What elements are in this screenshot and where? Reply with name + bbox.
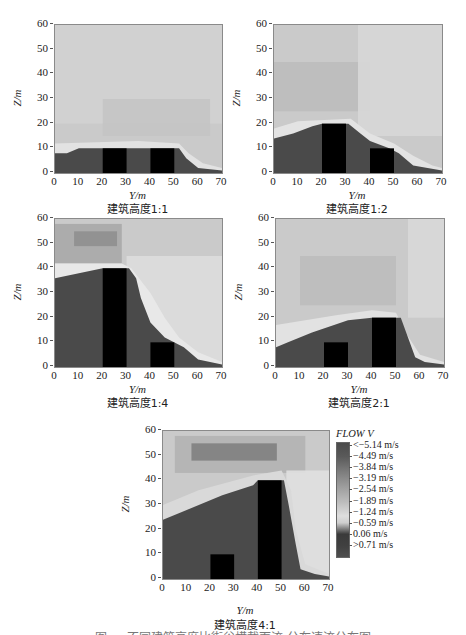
y-tick-label: 40 bbox=[138, 473, 156, 484]
building-block bbox=[150, 148, 174, 173]
y-tick-label: 40 bbox=[251, 261, 269, 272]
x-tick-label: 0 bbox=[265, 369, 285, 381]
x-tick-label: 0 bbox=[152, 581, 172, 593]
y-tick-label: 60 bbox=[251, 212, 269, 223]
x-tick-label: 10 bbox=[287, 175, 307, 187]
y-tick-label: 20 bbox=[30, 117, 48, 128]
plot-area bbox=[275, 218, 445, 368]
x-tick-label: 50 bbox=[383, 175, 403, 187]
x-tick-label: 10 bbox=[68, 175, 88, 187]
y-tick-label: 30 bbox=[138, 498, 156, 509]
panel-caption: 建筑高度1:2 bbox=[307, 200, 407, 216]
x-tick-label: 50 bbox=[163, 369, 183, 381]
x-tick-label: 20 bbox=[311, 175, 331, 187]
legend-tick-label: >0.71 m/s bbox=[353, 540, 393, 550]
building-block bbox=[324, 342, 348, 367]
y-tick-label: 20 bbox=[138, 523, 156, 534]
x-tick-label: 20 bbox=[313, 369, 333, 381]
y-tick-label: 50 bbox=[138, 449, 156, 460]
building-block bbox=[210, 554, 234, 579]
x-tick-label: 20 bbox=[92, 175, 112, 187]
colorbar bbox=[336, 442, 350, 558]
building-block bbox=[103, 268, 127, 367]
building-block bbox=[258, 480, 282, 579]
y-tick-label: 30 bbox=[30, 286, 48, 297]
building-block bbox=[370, 148, 394, 173]
legend-tick-label: 0.06 m/s bbox=[353, 529, 387, 539]
y-tick-label: 40 bbox=[30, 67, 48, 78]
y-tick-label: 50 bbox=[30, 43, 48, 54]
y-tick-label: 10 bbox=[138, 547, 156, 558]
building-block bbox=[372, 318, 396, 367]
x-tick-label: 0 bbox=[263, 175, 283, 187]
y-tick-label: 50 bbox=[249, 43, 267, 54]
legend-tick-label: −1.24 m/s bbox=[353, 507, 393, 517]
x-tick-label: 20 bbox=[199, 581, 219, 593]
x-tick-label: 40 bbox=[361, 369, 381, 381]
figure-caption-clipped: 图 … 不同建筑高度比街谷横截面流 分布速流分布图 bbox=[0, 628, 466, 635]
x-tick-label: 0 bbox=[44, 369, 64, 381]
building-block bbox=[103, 148, 127, 173]
y-tick-label: 50 bbox=[251, 237, 269, 248]
y-tick-label: 60 bbox=[30, 18, 48, 29]
x-tick-label: 30 bbox=[335, 175, 355, 187]
legend-title: FLOW V bbox=[336, 428, 374, 439]
x-tick-label: 10 bbox=[68, 369, 88, 381]
x-tick-label: 70 bbox=[318, 581, 338, 593]
legend-tick-label: <−5.14 m/s bbox=[353, 440, 399, 450]
panel-caption: 建筑高度1:4 bbox=[88, 394, 188, 410]
x-tick-label: 10 bbox=[289, 369, 309, 381]
building-block bbox=[150, 342, 174, 367]
x-tick-label: 60 bbox=[407, 175, 427, 187]
y-tick-label: 20 bbox=[30, 311, 48, 322]
y-tick-label: 10 bbox=[30, 141, 48, 152]
legend-tick-label: −1.89 m/s bbox=[353, 496, 393, 506]
y-tick-label: 60 bbox=[138, 424, 156, 435]
x-tick-label: 0 bbox=[44, 175, 64, 187]
y-axis-label: Z/m bbox=[119, 495, 131, 512]
x-tick-label: 60 bbox=[187, 369, 207, 381]
x-axis-label: Y/m bbox=[225, 604, 265, 616]
y-axis-label: Z/m bbox=[230, 89, 242, 106]
x-tick-label: 60 bbox=[409, 369, 429, 381]
x-tick-label: 30 bbox=[337, 369, 357, 381]
y-tick-label: 30 bbox=[30, 92, 48, 103]
y-tick-label: 30 bbox=[249, 92, 267, 103]
y-tick-label: 10 bbox=[251, 335, 269, 346]
x-tick-label: 10 bbox=[176, 581, 196, 593]
y-tick-label: 50 bbox=[30, 237, 48, 248]
x-tick-label: 60 bbox=[294, 581, 314, 593]
x-tick-label: 70 bbox=[211, 369, 231, 381]
y-axis-label: Z/m bbox=[232, 283, 244, 300]
x-tick-label: 30 bbox=[223, 581, 243, 593]
legend-tick-label: −2.54 m/s bbox=[353, 484, 393, 494]
legend-tick-label: −3.19 m/s bbox=[353, 473, 393, 483]
y-tick-label: 40 bbox=[249, 67, 267, 78]
plot-area bbox=[162, 430, 330, 580]
y-tick-label: 60 bbox=[30, 212, 48, 223]
plot-area bbox=[273, 24, 443, 174]
x-tick-label: 30 bbox=[116, 175, 136, 187]
x-tick-label: 50 bbox=[163, 175, 183, 187]
x-tick-label: 50 bbox=[385, 369, 405, 381]
building-block bbox=[322, 124, 346, 173]
y-tick-label: 60 bbox=[249, 18, 267, 29]
y-tick-label: 20 bbox=[251, 311, 269, 322]
plot-area bbox=[54, 218, 223, 368]
x-tick-label: 20 bbox=[92, 369, 112, 381]
x-tick-label: 70 bbox=[433, 369, 453, 381]
legend-tick-label: −0.59 m/s bbox=[353, 518, 393, 528]
panel-caption: 建筑高度1:1 bbox=[88, 200, 188, 216]
plot-area bbox=[54, 24, 223, 174]
panel-caption: 建筑高度2:1 bbox=[309, 394, 409, 410]
legend-tick-label: −3.84 m/s bbox=[353, 462, 393, 472]
x-tick-label: 40 bbox=[139, 369, 159, 381]
legend-tick-label: −4.49 m/s bbox=[353, 451, 393, 461]
y-tick-label: 20 bbox=[249, 117, 267, 128]
y-tick-label: 10 bbox=[30, 335, 48, 346]
x-tick-label: 70 bbox=[211, 175, 231, 187]
x-tick-label: 40 bbox=[139, 175, 159, 187]
x-tick-label: 30 bbox=[116, 369, 136, 381]
x-tick-label: 60 bbox=[187, 175, 207, 187]
x-tick-label: 70 bbox=[431, 175, 451, 187]
